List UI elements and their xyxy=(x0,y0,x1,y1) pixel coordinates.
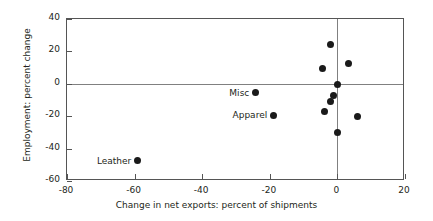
data-point xyxy=(252,89,259,96)
plot-area: MiscApparelLeather xyxy=(66,18,404,180)
x-tick-label: 20 xyxy=(379,185,429,195)
y-tick-mark xyxy=(67,51,72,52)
data-point xyxy=(319,65,326,72)
zero-line-vertical xyxy=(337,19,338,179)
y-tick-mark xyxy=(67,116,72,117)
x-tick-mark xyxy=(270,174,271,179)
data-point xyxy=(327,98,334,105)
y-tick-mark xyxy=(67,19,72,20)
data-point xyxy=(334,81,341,88)
y-tick-mark xyxy=(67,181,72,182)
x-tick-label: -20 xyxy=(244,185,294,195)
scatter-plot-figure: MiscApparelLeather -60-40-2002040 -80-60… xyxy=(0,0,433,221)
y-tick-label: -60 xyxy=(22,174,60,184)
data-point xyxy=(134,157,141,164)
data-point xyxy=(321,108,328,115)
y-tick-mark xyxy=(67,84,72,85)
x-tick-label: -60 xyxy=(109,185,159,195)
x-tick-mark xyxy=(202,174,203,179)
data-point xyxy=(334,129,341,136)
data-point xyxy=(345,60,352,67)
y-axis-label: Employment: percent change xyxy=(22,15,32,175)
data-point xyxy=(327,41,334,48)
x-tick-label: -80 xyxy=(41,185,91,195)
zero-line-horizontal xyxy=(67,84,403,85)
x-tick-label: 0 xyxy=(311,185,361,195)
x-tick-mark xyxy=(405,174,406,179)
x-tick-label: -40 xyxy=(176,185,226,195)
data-point-label: Apparel xyxy=(233,110,268,120)
data-point-label: Misc xyxy=(229,88,249,98)
data-point xyxy=(354,113,361,120)
data-point xyxy=(270,112,277,119)
y-tick-mark xyxy=(67,149,72,150)
x-tick-mark xyxy=(67,174,68,179)
data-point-label: Leather xyxy=(97,156,131,166)
x-tick-mark xyxy=(337,174,338,179)
x-tick-mark xyxy=(135,174,136,179)
x-axis-label: Change in net exports: percent of shipme… xyxy=(0,200,433,210)
